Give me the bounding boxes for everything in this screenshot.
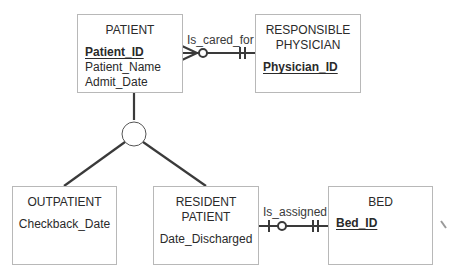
entity-name-line1: RESPONSIBLE [256, 23, 360, 38]
entity-name-line1: RESIDENT [154, 195, 258, 210]
entity-bed[interactable]: BED Bed_ID [328, 186, 433, 265]
entity-name: OUTPATIENT [13, 195, 116, 210]
stray-mark [441, 221, 446, 228]
primary-key: Bed_ID [336, 216, 432, 231]
entity-name-line2: PHYSICIAN [256, 38, 360, 53]
relationship-label-is-assigned: Is_assigned [263, 205, 327, 219]
subtype-circle [122, 122, 146, 146]
entity-name: BED [329, 195, 432, 210]
entity-name: RESIDENT PATIENT [154, 195, 258, 225]
entity-patient[interactable]: PATIENT Patient_ID Patient_Name Admit_Da… [77, 14, 183, 93]
entity-responsible-physician[interactable]: RESPONSIBLE PHYSICIAN Physician_ID [255, 14, 361, 93]
attribute: Patient_Name [85, 60, 182, 75]
primary-key: Physician_ID [263, 60, 360, 75]
entity-resident-patient[interactable]: RESIDENT PATIENT Date_Discharged [153, 186, 259, 265]
attribute: Admit_Date [85, 75, 182, 90]
entity-name: PATIENT [78, 23, 182, 38]
primary-key: Patient_ID [85, 45, 182, 60]
relationship-label-is-cared-for: Is_cared_for [187, 33, 254, 47]
entity-name-line2: PATIENT [154, 210, 258, 225]
entity-name: RESPONSIBLE PHYSICIAN [256, 23, 360, 53]
is-cared-for-connector [182, 46, 255, 60]
entity-outpatient[interactable]: OUTPATIENT Checkback_Date [12, 186, 117, 265]
attribute: Checkback_Date [13, 217, 116, 232]
attribute: Date_Discharged [154, 232, 258, 247]
is-assigned-connector [258, 220, 328, 232]
